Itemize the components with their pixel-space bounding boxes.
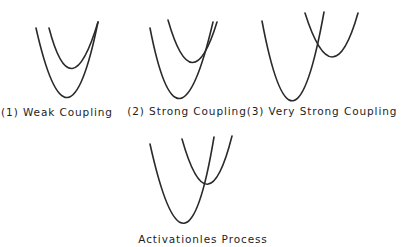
label-weak-coupling: (1) Weak Coupling	[1, 106, 113, 118]
lower-potential-curve	[150, 137, 214, 223]
panel-activationless-process	[150, 136, 232, 223]
label-strong-coupling: (2) Strong Coupling	[127, 105, 247, 117]
upper-potential-curve	[49, 22, 98, 69]
lower-potential-curve	[36, 22, 98, 98]
upper-potential-curve	[305, 13, 358, 57]
panel-weak-coupling	[36, 22, 98, 98]
label-activationless-process: Activationles Process	[138, 233, 267, 245]
panel-strong-coupling	[150, 20, 217, 99]
upper-potential-curve	[168, 20, 217, 63]
lower-potential-curve	[150, 22, 213, 99]
diagram-canvas	[0, 0, 402, 247]
lower-potential-curve	[262, 12, 324, 101]
upper-potential-curve	[182, 136, 232, 184]
panel-very-strong-coupling	[262, 12, 358, 101]
label-very-strong-coupling: (3) Very Strong Coupling	[247, 105, 398, 117]
